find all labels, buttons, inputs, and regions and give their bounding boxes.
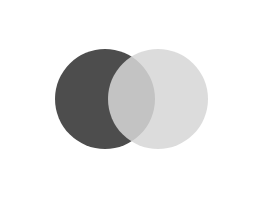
venn-svg: [0, 0, 263, 204]
right-set-circle: [108, 49, 208, 149]
figure-canvas: [0, 0, 263, 204]
venn-diagram: [0, 0, 263, 204]
